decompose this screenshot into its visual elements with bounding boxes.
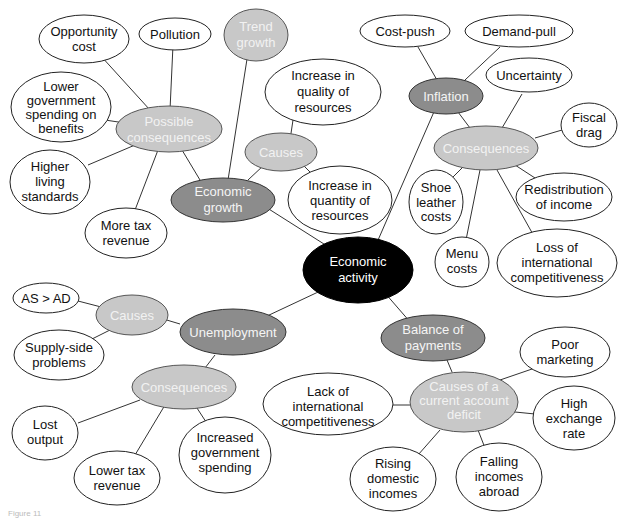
svg-text:Inflation: Inflation [423, 89, 469, 104]
node-lack-competitiveness[interactable]: Lack of international competitiveness [263, 373, 393, 435]
svg-text:Increase in: Increase in [291, 68, 355, 83]
svg-text:exchange: exchange [546, 411, 602, 426]
svg-text:consequences: consequences [127, 130, 211, 145]
node-more-tax-revenue[interactable]: More tax revenue [85, 208, 167, 258]
svg-text:problems: problems [32, 355, 86, 370]
svg-text:Consequences: Consequences [141, 380, 228, 395]
svg-text:spending on: spending on [26, 107, 97, 122]
node-fiscal-drag[interactable]: Fiscal drag [561, 103, 617, 147]
node-menu-costs[interactable]: Menu costs [435, 237, 489, 287]
svg-text:living: living [35, 174, 65, 189]
svg-text:Causes: Causes [259, 145, 304, 160]
svg-text:rate: rate [563, 426, 585, 441]
node-falling-incomes[interactable]: Falling incomes abroad [456, 443, 542, 511]
node-increased-gov-spending[interactable]: Increased government spending [179, 417, 271, 493]
svg-text:Trend: Trend [239, 19, 272, 34]
svg-text:competitiveness: competitiveness [510, 270, 604, 285]
svg-text:Fiscal: Fiscal [572, 110, 606, 125]
svg-text:quality of: quality of [297, 84, 349, 99]
svg-text:AS > AD: AS > AD [21, 291, 71, 306]
svg-text:Poor: Poor [551, 337, 579, 352]
node-current-account-causes[interactable]: Causes of a current account deficit [410, 372, 518, 432]
node-redistribution[interactable]: Redistribution of income [516, 173, 612, 221]
node-lower-gov-spending[interactable]: Lower government spending on benefits [11, 72, 111, 142]
svg-text:Causes: Causes [110, 308, 155, 323]
svg-text:Redistribution: Redistribution [524, 182, 604, 197]
svg-text:Economic: Economic [329, 254, 387, 269]
node-higher-living-standards[interactable]: Higher living standards [10, 150, 90, 214]
node-balance-of-payments[interactable]: Balance of payments [381, 315, 485, 361]
node-possible-consequences[interactable]: Possible consequences [116, 106, 222, 152]
node-rising-incomes[interactable]: Rising domestic incomes [350, 447, 436, 511]
node-uncertainty[interactable]: Uncertainty [486, 58, 572, 92]
node-growth-causes[interactable]: Causes [245, 133, 317, 171]
svg-text:Supply-side: Supply-side [25, 340, 93, 355]
node-poor-marketing[interactable]: Poor marketing [520, 327, 610, 377]
node-opportunity-cost[interactable]: Opportunity cost [39, 15, 129, 63]
node-increase-quality[interactable]: Increase in quality of resources [265, 59, 381, 125]
svg-text:costs: costs [421, 209, 452, 224]
svg-text:costs: costs [447, 261, 478, 276]
node-trend-growth[interactable]: Trend growth [224, 9, 288, 61]
svg-text:Increased: Increased [196, 430, 253, 445]
node-high-exchange-rate[interactable]: High exchange rate [533, 386, 615, 450]
svg-text:resources: resources [294, 100, 352, 115]
svg-text:Lower: Lower [43, 79, 79, 94]
mind-map-diagram: Economic activity Economic growth Trend … [0, 0, 624, 518]
svg-text:Pollution: Pollution [150, 27, 200, 42]
svg-text:Balance of: Balance of [402, 322, 464, 337]
svg-text:High: High [561, 396, 588, 411]
svg-text:Possible: Possible [144, 114, 193, 129]
node-supply-side[interactable]: Supply-side problems [14, 330, 104, 380]
svg-text:competitiveness: competitiveness [281, 414, 375, 429]
node-inflation[interactable]: Inflation [409, 78, 483, 114]
node-economic-activity[interactable]: Economic activity [303, 237, 413, 303]
node-pollution[interactable]: Pollution [139, 18, 211, 50]
svg-text:Lack of: Lack of [307, 384, 349, 399]
svg-text:government: government [27, 93, 96, 108]
node-unemployment-consequences[interactable]: Consequences [132, 365, 236, 409]
node-demand-pull[interactable]: Demand-pull [465, 15, 573, 47]
node-unemployment[interactable]: Unemployment [180, 309, 286, 355]
svg-text:benefits: benefits [38, 121, 84, 136]
svg-text:resources: resources [311, 208, 369, 223]
node-lower-tax-revenue[interactable]: Lower tax revenue [74, 451, 160, 505]
svg-text:Economic: Economic [194, 184, 252, 199]
svg-text:Opportunity: Opportunity [50, 24, 118, 39]
node-unemployment-causes[interactable]: Causes [96, 295, 168, 335]
svg-text:Loss of: Loss of [536, 240, 578, 255]
svg-text:Falling: Falling [480, 454, 518, 469]
svg-text:of income: of income [536, 197, 592, 212]
svg-text:cost: cost [72, 39, 96, 54]
svg-text:output: output [27, 432, 64, 447]
svg-text:abroad: abroad [479, 484, 519, 499]
node-increase-quantity[interactable]: Increase in quantity of resources [288, 166, 392, 234]
svg-text:Lower tax: Lower tax [89, 463, 146, 478]
node-as-ad[interactable]: AS > AD [13, 283, 79, 313]
svg-text:incomes: incomes [475, 469, 524, 484]
svg-text:deficit: deficit [447, 407, 481, 422]
svg-text:Consequences: Consequences [443, 141, 530, 156]
node-inflation-consequences[interactable]: Consequences [434, 126, 538, 170]
svg-text:Cost-push: Cost-push [375, 24, 434, 39]
node-shoe-leather[interactable]: Shoe leather costs [409, 170, 463, 234]
svg-text:Lost: Lost [33, 417, 58, 432]
svg-text:Unemployment: Unemployment [189, 325, 277, 340]
node-loss-competitiveness[interactable]: Loss of international competitiveness [497, 229, 617, 297]
svg-text:government: government [191, 445, 260, 460]
svg-text:Demand-pull: Demand-pull [482, 24, 556, 39]
node-cost-push[interactable]: Cost-push [360, 15, 450, 47]
svg-text:standards: standards [21, 189, 79, 204]
svg-text:Higher: Higher [31, 159, 70, 174]
svg-text:payments: payments [405, 338, 462, 353]
svg-text:revenue: revenue [94, 478, 141, 493]
node-lost-output[interactable]: Lost output [12, 406, 78, 460]
svg-text:domestic: domestic [367, 471, 420, 486]
svg-text:revenue: revenue [103, 233, 150, 248]
svg-text:spending: spending [199, 460, 252, 475]
figure-caption: Figure 11 [8, 509, 42, 518]
svg-text:marketing: marketing [536, 352, 593, 367]
svg-text:quantity of: quantity of [310, 193, 370, 208]
svg-text:current account: current account [419, 393, 509, 408]
node-economic-growth[interactable]: Economic growth [171, 178, 275, 222]
